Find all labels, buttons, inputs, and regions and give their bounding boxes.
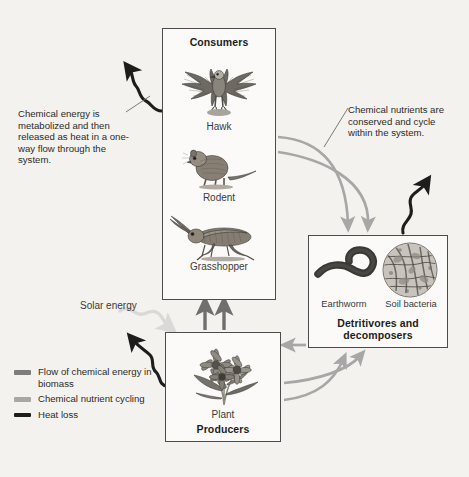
right-annotation: Chemical nutrients are conserved and cyc… [348, 104, 460, 139]
plant-icon [166, 339, 280, 411]
legend-label-heat: Heat loss [38, 409, 78, 421]
grasshopper-label: Grasshopper [163, 261, 275, 272]
arrow-producers-to-consumers [205, 306, 224, 330]
soil-bacteria-glyph [383, 243, 438, 297]
consumers-box: Consumers Hawk [162, 28, 276, 300]
solar-energy-arrow [120, 309, 168, 326]
rodent-label: Rodent [163, 192, 275, 203]
rodent-icon [163, 141, 275, 191]
legend-swatch-biomass [14, 370, 31, 375]
arrow-consumers-to-detritivores [278, 137, 368, 224]
consumers-title: Consumers [163, 36, 275, 48]
hawk-icon [163, 55, 275, 117]
detritivore-organisms [309, 241, 447, 301]
legend-item-nutrient: Chemical nutrient cycling [14, 393, 164, 405]
earthworm-glyph [318, 250, 373, 274]
detritivores-title-line2: decomposers [343, 329, 412, 341]
hawk-label: Hawk [163, 121, 275, 132]
legend-item-biomass: Flow of chemical energy in biomass [14, 366, 164, 389]
producers-title: Producers [166, 423, 280, 435]
detritivores-box: Earthworm Soil bacteria Detritivores and… [308, 235, 448, 348]
soil-bacteria-label: Soil bacteria [377, 298, 445, 309]
legend-label-biomass: Flow of chemical energy in biomass [38, 366, 164, 389]
heat-loss-arrow-consumers [130, 70, 162, 111]
producers-box: Plant Producers [165, 332, 281, 442]
legend-item-heat: Heat loss [14, 409, 164, 421]
arrow-producers-to-detritivores [284, 356, 360, 400]
plant-label: Plant [166, 409, 280, 420]
grasshopper-icon [163, 214, 275, 262]
solar-energy-label: Solar energy [80, 300, 137, 311]
left-annotation: Chemical energy is metabolized and then … [18, 108, 130, 166]
detritivores-title-line1: Detritivores and [337, 317, 419, 329]
earthworm-label: Earthworm [313, 298, 375, 309]
leader-line-right-annotation [324, 108, 348, 147]
diagram-canvas: Consumers Hawk [0, 0, 469, 477]
legend-swatch-heat [14, 413, 31, 418]
detritivores-title: Detritivores and decomposers [309, 317, 447, 341]
legend-label-nutrient: Chemical nutrient cycling [38, 393, 145, 405]
legend-swatch-nutrient [14, 397, 31, 402]
heat-loss-arrow-detritivores [403, 184, 425, 233]
legend: Flow of chemical energy in biomass Chemi… [14, 366, 164, 424]
